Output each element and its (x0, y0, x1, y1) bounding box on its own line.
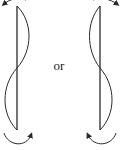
right-figure (88, 0, 117, 144)
left-figure (4, 0, 31, 144)
right-top-rotation-arrow-icon (93, 0, 117, 4)
rotating-string-diagram (0, 0, 123, 150)
left-top-rotation-arrow-icon (4, 0, 26, 4)
or-connector-label: or (48, 58, 70, 74)
right-bottom-rotation-arrow-icon (88, 133, 116, 144)
left-bottom-rotation-arrow-icon (4, 133, 31, 144)
right-wave-curve (90, 6, 113, 130)
